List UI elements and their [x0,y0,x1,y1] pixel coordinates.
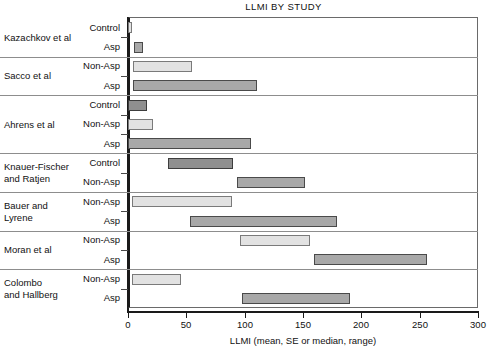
x-tick [303,313,304,318]
category-label: Non-Asp [48,176,120,187]
x-tick [128,313,129,318]
group-separator [0,95,478,96]
x-tick-label: 300 [458,319,495,330]
study-label: Moran et al [4,244,52,256]
range-bar [237,177,306,188]
range-bar [133,61,193,72]
category-tick [121,76,128,77]
group-separator [0,231,478,232]
category-label: Asp [48,138,120,149]
category-label: Non-Asp [48,196,120,207]
x-tick [245,313,246,318]
x-tick [186,313,187,318]
study-label: Bauer and Lyrene [4,200,48,223]
range-bar [128,138,251,149]
range-bar [128,22,132,33]
category-tick [121,134,128,135]
x-tick [420,313,421,318]
range-bar [314,254,427,265]
x-tick [478,313,479,318]
category-label: Non-Asp [48,273,120,284]
x-tick-label: 100 [225,319,265,330]
x-axis-label: LLMI (mean, SE or median, range) [128,335,478,346]
range-bar [134,42,143,53]
category-label: Asp [48,41,120,52]
category-tick [121,115,128,116]
x-tick-label: 150 [283,319,323,330]
range-bar [190,216,337,227]
x-tick-label: 50 [166,319,206,330]
category-tick [121,289,128,290]
category-label: Control [48,99,120,110]
category-label: Non-Asp [48,234,120,245]
category-label: Control [48,157,120,168]
group-separator [0,153,478,154]
chart-title: LLMI BY STUDY [0,1,495,12]
range-bar [128,100,147,111]
range-bar [133,80,258,91]
category-label: Non-Asp [48,60,120,71]
group-separator [0,57,478,58]
x-tick-label: 200 [341,319,381,330]
x-tick [361,313,362,318]
range-bar [240,235,310,246]
range-bar [128,119,153,130]
x-tick-label: 250 [400,319,440,330]
category-tick [121,211,128,212]
category-label: Asp [48,292,120,303]
llmi-by-study-chart: LLMI BY STUDY Kazachkov et alControlAspS… [0,0,495,357]
category-tick [121,37,128,38]
x-tick-label: 0 [108,319,148,330]
group-separator [0,192,478,193]
category-label: Asp [48,254,120,265]
category-label: Non-Asp [48,118,120,129]
category-tick [121,250,128,251]
group-separator [0,269,478,270]
range-bar [132,196,232,207]
category-label: Control [48,22,120,33]
category-tick [121,173,128,174]
category-label: Asp [48,80,120,91]
range-bar [168,158,233,169]
category-label: Asp [48,215,120,226]
range-bar [242,293,349,304]
study-label: Sacco et al [4,70,51,82]
chart-title-text: LLMI BY STUDY [245,1,321,12]
range-bar [132,274,181,285]
